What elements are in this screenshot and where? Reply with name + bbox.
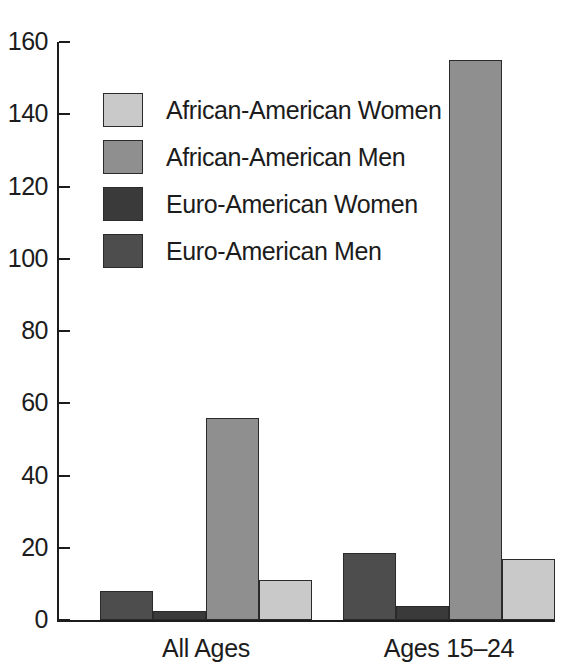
legend-item: African-American Men bbox=[103, 135, 433, 179]
y-axis-tick-label: 20 bbox=[0, 535, 48, 560]
x-axis-line bbox=[57, 620, 555, 622]
legend-swatch bbox=[103, 93, 143, 127]
bar bbox=[259, 580, 312, 620]
bar bbox=[153, 611, 206, 620]
legend-swatch bbox=[103, 234, 143, 268]
legend-item-label: Euro-American Men bbox=[166, 239, 382, 264]
x-axis-group-label: All Ages bbox=[96, 636, 316, 661]
y-axis-tick-label: 0 bbox=[0, 607, 48, 632]
y-axis-tick-label: 60 bbox=[0, 390, 48, 415]
legend-swatch bbox=[103, 187, 143, 221]
bar bbox=[449, 60, 502, 620]
legend-item-label: African-American Women bbox=[166, 98, 442, 123]
y-axis-tick-label: 140 bbox=[0, 101, 48, 126]
legend-item-label: Euro-American Women bbox=[166, 192, 418, 217]
chart-legend: African-American WomenAfrican-American M… bbox=[103, 88, 433, 276]
y-axis-tick-label: 100 bbox=[0, 246, 48, 271]
y-axis-tick-label: 120 bbox=[0, 174, 48, 199]
bar-chart: 020406080100120140160 All AgesAges 15–24… bbox=[0, 0, 580, 670]
bar bbox=[502, 559, 555, 620]
bar bbox=[206, 418, 259, 620]
bar bbox=[396, 606, 449, 620]
y-axis-tick-label: 80 bbox=[0, 318, 48, 343]
x-axis-group-label: Ages 15–24 bbox=[339, 636, 559, 661]
legend-swatch bbox=[103, 140, 143, 174]
y-axis-tick-label: 40 bbox=[0, 463, 48, 488]
bar bbox=[343, 553, 396, 620]
legend-item: Euro-American Men bbox=[103, 229, 433, 273]
bar bbox=[100, 591, 153, 620]
legend-item: Euro-American Women bbox=[103, 182, 433, 226]
legend-item: African-American Women bbox=[103, 88, 433, 132]
legend-item-label: African-American Men bbox=[166, 145, 405, 170]
y-axis-tick-label: 160 bbox=[0, 29, 48, 54]
